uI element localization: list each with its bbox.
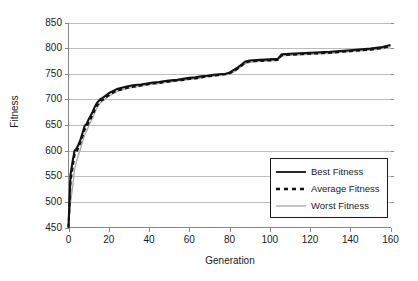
legend-label: Worst Fitness — [311, 201, 369, 211]
legend-label: Best Fitness — [311, 167, 363, 177]
x-tick-label: 120 — [290, 235, 330, 245]
y-tick-label: 650 — [24, 120, 62, 130]
y-tick-label: 750 — [24, 69, 62, 79]
fitness-chart-figure: 850800750700650600550500450 020406080100… — [0, 0, 418, 281]
y-tick-label: 700 — [24, 94, 62, 104]
y-tick-label: 450 — [24, 223, 62, 233]
y-tick-label: 800 — [24, 43, 62, 53]
y-tick-label: 500 — [24, 197, 62, 207]
legend-item: Best Fitness — [271, 163, 387, 180]
x-tick-label: 100 — [250, 235, 290, 245]
y-tick-label: 600 — [24, 146, 62, 156]
y-tick-label: 550 — [24, 171, 62, 181]
x-axis-title: Generation — [69, 255, 391, 266]
legend-swatch-icon — [276, 201, 306, 211]
x-tick-label: 140 — [330, 235, 370, 245]
legend-swatch-icon — [276, 184, 306, 194]
x-tick-label: 80 — [210, 235, 250, 245]
legend-swatch-icon — [276, 167, 306, 177]
x-tick-label: 160 — [371, 235, 411, 245]
x-tick-label: 20 — [89, 235, 129, 245]
x-tick-label: 40 — [129, 235, 169, 245]
x-tick-label: 60 — [169, 235, 209, 245]
chart-legend: Best FitnessAverage FitnessWorst Fitness — [270, 158, 388, 218]
legend-item: Worst Fitness — [271, 197, 387, 214]
legend-label: Average Fitness — [311, 184, 379, 194]
x-tick-label: 0 — [49, 235, 89, 245]
legend-item: Average Fitness — [271, 180, 387, 197]
y-tick-label: 850 — [24, 18, 62, 28]
y-axis-title: Fitness — [9, 82, 20, 142]
